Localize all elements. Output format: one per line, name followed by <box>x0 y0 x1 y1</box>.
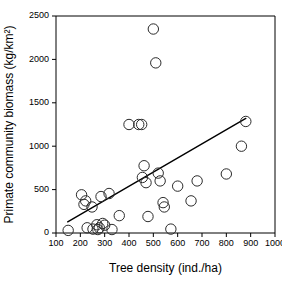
x-tick-label: 600 <box>170 238 185 248</box>
y-tick-label: 1500 <box>29 97 49 107</box>
y-tick-label: 2500 <box>29 10 49 20</box>
data-point-marker <box>114 210 124 220</box>
data-point-marker <box>148 24 158 34</box>
x-tick-label: 100 <box>48 238 63 248</box>
x-tick-label: 300 <box>97 238 112 248</box>
plot-canvas: 0500100015002000250010020030040050060070… <box>0 0 282 284</box>
data-point-marker <box>136 119 146 129</box>
data-point-marker <box>124 119 134 129</box>
y-tick-label: 2000 <box>29 54 49 64</box>
x-tick-label: 400 <box>121 238 136 248</box>
data-point-marker <box>139 161 149 171</box>
y-tick-label: 1000 <box>29 141 49 151</box>
data-point-marker <box>221 169 231 179</box>
x-tick-label: 200 <box>73 238 88 248</box>
scatter-plot-figure: 0500100015002000250010020030040050060070… <box>0 0 282 284</box>
x-tick-label: 800 <box>219 238 234 248</box>
x-tick-label: 700 <box>194 238 209 248</box>
x-axis-title: Tree density (ind./ha) <box>109 261 222 275</box>
data-point-marker <box>155 176 165 186</box>
x-tick-label: 900 <box>243 238 258 248</box>
x-tick-label: 1000 <box>265 238 282 248</box>
y-axis-title: Primate community biomass (kg/km²) <box>2 25 16 223</box>
data-point-marker <box>172 181 182 191</box>
regression-line <box>68 118 246 221</box>
data-point-marker <box>63 225 73 235</box>
y-tick-label: 0 <box>44 227 49 237</box>
y-tick-label: 500 <box>34 184 49 194</box>
data-point-marker <box>192 176 202 186</box>
data-point-marker <box>134 119 144 129</box>
data-point-marker <box>236 141 246 151</box>
data-point-marker <box>151 58 161 68</box>
data-point-marker <box>143 211 153 221</box>
data-point-marker <box>186 196 196 206</box>
x-tick-label: 500 <box>146 238 161 248</box>
